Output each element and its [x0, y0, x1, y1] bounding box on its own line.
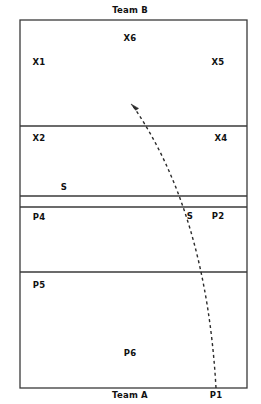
player-label-x1: X1 — [33, 58, 46, 67]
volleyball-court-diagram: Team B Team A P1 X6X1X5X2X4SP4SP2P5P6 — [0, 0, 261, 404]
team-b-label: Team B — [112, 6, 148, 15]
player-label-p2: P2 — [212, 212, 225, 221]
court-boundary — [20, 20, 247, 388]
player-label-x4: X4 — [215, 134, 228, 143]
player-label-x2: X2 — [33, 134, 46, 143]
player-label-p4: P4 — [33, 213, 46, 222]
player-label-p1: P1 — [210, 391, 223, 400]
player-label-x5: X5 — [212, 58, 225, 67]
player-label-x6: X6 — [124, 34, 137, 43]
player-label-s: S — [187, 212, 193, 221]
player-label-s: S — [61, 183, 67, 192]
court-outline — [20, 20, 247, 388]
player-label-p6: P6 — [124, 349, 137, 358]
player-label-p5: P5 — [33, 281, 46, 290]
team-a-label: Team A — [112, 391, 148, 400]
